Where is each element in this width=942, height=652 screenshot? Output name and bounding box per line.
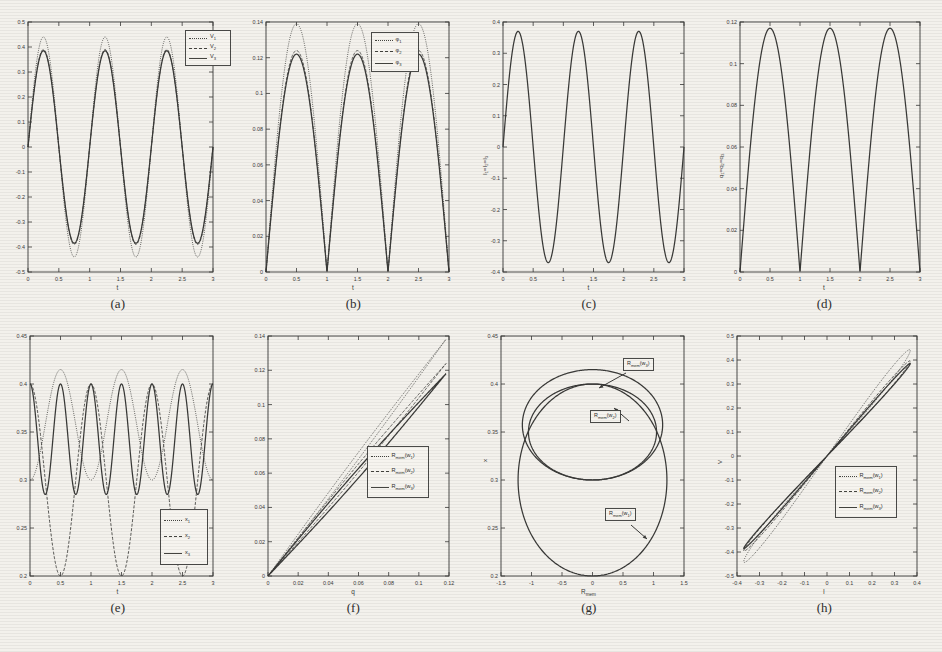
svg-text:0.04: 0.04 (254, 504, 265, 510)
panel-b-caption: (b) (236, 296, 472, 312)
legend-label: Rmem(w3) (392, 484, 415, 491)
svg-text:0.08: 0.08 (252, 126, 263, 132)
svg-text:0.08: 0.08 (383, 580, 394, 586)
legend-label: Rmem(w1) (860, 473, 883, 480)
svg-text:0: 0 (825, 580, 828, 586)
svg-text:0.02: 0.02 (726, 227, 737, 233)
legend-label: Rmem(w2) (860, 488, 883, 495)
panel-e-xlabel: t (0, 588, 235, 595)
svg-text:0.5: 0.5 (292, 276, 300, 282)
svg-text:1.5: 1.5 (118, 580, 126, 586)
legend-swatch-dashed (189, 48, 207, 49)
svg-text:0.5: 0.5 (766, 276, 774, 282)
svg-text:2.5: 2.5 (414, 276, 422, 282)
svg-text:0.14: 0.14 (254, 333, 265, 339)
svg-text:0: 0 (266, 580, 269, 586)
svg-text:0: 0 (22, 144, 25, 150)
svg-text:1: 1 (325, 276, 328, 282)
svg-text:0.5: 0.5 (619, 580, 627, 586)
legend-f: Rmem(w1) Rmem(w2) Rmem(w3) (367, 446, 429, 498)
svg-text:2: 2 (622, 276, 625, 282)
svg-text:0.4: 0.4 (491, 381, 499, 387)
svg-text:-0.3: -0.3 (724, 525, 733, 531)
svg-text:0: 0 (738, 276, 741, 282)
legend-label: φ3 (396, 60, 402, 67)
panel-c-plot: 00.511.522.53-0.4-0.3-0.2-0.100.10.20.30… (471, 0, 706, 326)
svg-text:0.12: 0.12 (443, 580, 454, 586)
legend-label: V3 (210, 54, 216, 61)
figure-grid: 00.511.522.53-0.5-0.4-0.3-0.2-0.100.10.2… (0, 0, 942, 652)
legend-swatch-solid (164, 553, 182, 554)
svg-text:1.5: 1.5 (590, 276, 598, 282)
panel-g-ylabel: x (481, 459, 488, 462)
legend-item: V3 (189, 54, 227, 63)
svg-text:-0.4: -0.4 (724, 549, 733, 555)
panel-d-caption: (d) (707, 296, 942, 312)
svg-text:0.4: 0.4 (726, 357, 734, 363)
legend-swatch-solid (189, 58, 207, 59)
svg-text:0.3: 0.3 (726, 381, 734, 387)
panel-f-caption: (f) (236, 600, 472, 616)
svg-text:0.02: 0.02 (252, 233, 263, 239)
legend-swatch-dotted (375, 40, 393, 41)
legend-swatch-dashed (839, 491, 857, 492)
svg-text:0.4: 0.4 (913, 580, 921, 586)
svg-text:0.35: 0.35 (17, 429, 28, 435)
svg-text:0.4: 0.4 (493, 19, 501, 25)
svg-text:0.2: 0.2 (726, 405, 734, 411)
svg-text:2: 2 (858, 276, 861, 282)
panel-g-xlabel: Rmem (471, 588, 706, 597)
svg-text:-0.1: -0.1 (724, 477, 733, 483)
legend-swatch-dotted (371, 456, 389, 457)
svg-text:0.04: 0.04 (252, 198, 263, 204)
legend-item: V2 (189, 44, 227, 53)
svg-text:0: 0 (731, 453, 734, 459)
panel-d-plot: 00.511.522.5300.020.040.060.080.10.12 (707, 0, 942, 326)
annotation-rmem-w1: Rmem(w1) (605, 508, 636, 521)
panel-d-ylabel: q₁=q₂=q₃ (717, 153, 724, 178)
svg-text:0.45: 0.45 (17, 333, 28, 339)
svg-text:-0.1: -0.1 (799, 580, 808, 586)
svg-text:0.3: 0.3 (491, 477, 499, 483)
svg-text:2: 2 (150, 276, 153, 282)
svg-text:-0.3: -0.3 (491, 238, 500, 244)
svg-text:0.2: 0.2 (18, 94, 26, 100)
svg-text:3: 3 (212, 580, 215, 586)
legend-swatch-dotted (164, 520, 182, 521)
svg-text:0.2: 0.2 (493, 82, 501, 88)
svg-text:0.25: 0.25 (488, 525, 499, 531)
svg-text:2.5: 2.5 (650, 276, 658, 282)
svg-text:0: 0 (734, 269, 737, 275)
legend-item: Rmem(w3) (839, 503, 893, 512)
panel-a: 00.511.522.53-0.5-0.4-0.3-0.2-0.100.10.2… (0, 0, 236, 326)
legend-label: x3 (185, 550, 190, 557)
panel-c-xlabel: t (471, 284, 706, 291)
svg-text:0.1: 0.1 (415, 580, 423, 586)
svg-text:3: 3 (683, 276, 686, 282)
svg-text:2.5: 2.5 (178, 276, 186, 282)
panel-a-xlabel: t (0, 284, 235, 291)
svg-text:-0.4: -0.4 (491, 269, 500, 275)
svg-text:0.1: 0.1 (729, 61, 737, 67)
svg-text:0.3: 0.3 (20, 477, 28, 483)
legend-item: Rmem(w1) (371, 452, 425, 461)
svg-text:1: 1 (88, 276, 91, 282)
legend-item: Rmem(w2) (371, 467, 425, 476)
svg-text:1: 1 (798, 276, 801, 282)
svg-text:-0.3: -0.3 (16, 219, 25, 225)
legend-h: Rmem(w1) Rmem(w2) Rmem(w3) (835, 466, 897, 518)
svg-text:0: 0 (502, 276, 505, 282)
legend-label: Rmem(w3) (860, 504, 883, 511)
svg-text:3: 3 (212, 276, 215, 282)
svg-text:0.5: 0.5 (18, 19, 26, 25)
legend-label: V1 (210, 34, 216, 41)
panel-f-xlabel: q (236, 588, 471, 595)
svg-text:0.1: 0.1 (726, 429, 734, 435)
legend-item: Rmem(w2) (839, 487, 893, 496)
svg-text:0.2: 0.2 (20, 573, 28, 579)
panel-h-ylabel: V (716, 460, 723, 464)
svg-text:2: 2 (386, 276, 389, 282)
svg-text:0.5: 0.5 (726, 333, 734, 339)
svg-text:-0.2: -0.2 (777, 580, 786, 586)
svg-text:3: 3 (447, 276, 450, 282)
